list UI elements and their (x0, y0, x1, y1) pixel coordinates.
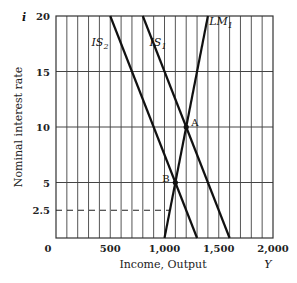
y-axis-label: Nominal interest rate (12, 67, 25, 187)
x-axis-ticks: 05001,0001,5002,000 (45, 243, 289, 255)
y-axis-ticks: 2.55101520 (33, 11, 50, 216)
x-tick-label: 2,000 (257, 243, 288, 255)
curve-label-is1: IS1 (149, 36, 167, 51)
point-a (184, 124, 189, 129)
curve-label-is2: IS2 (91, 36, 109, 51)
point-label-a: A (190, 117, 199, 128)
point-label-b: B (162, 173, 169, 184)
islm-chart: IS2IS1LM1 AB 05001,0001,5002,000 2.55101… (0, 0, 297, 283)
x-axis-symbol: Y (264, 258, 273, 271)
x-axis-label: Income, Output (119, 258, 207, 271)
x-tick-label: 0 (45, 243, 52, 254)
y-tick-label: 15 (36, 67, 50, 78)
y-tick-label: 2.5 (33, 205, 50, 216)
point-b (173, 180, 178, 185)
y-tick-label: 5 (43, 178, 50, 189)
x-tick-label: 1,500 (203, 243, 234, 255)
x-tick-label: 500 (100, 243, 121, 254)
y-axis-symbol: i (22, 11, 26, 24)
y-tick-label: 10 (36, 122, 50, 133)
x-tick-label: 1,000 (149, 243, 180, 255)
y-tick-label: 20 (36, 11, 50, 22)
